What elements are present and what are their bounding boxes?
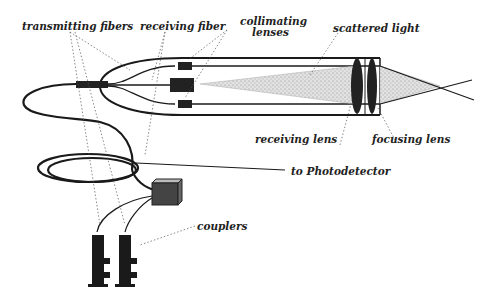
receiving-lens — [351, 58, 363, 114]
junction-box — [152, 179, 182, 205]
label-lenses: lenses — [252, 26, 289, 38]
leader-lines — [70, 30, 395, 245]
label-couplers: couplers — [197, 220, 248, 232]
label-focusing-lens: focusing lens — [371, 133, 450, 145]
probe-diagram: transmitting fibers receiving fiber coll… — [0, 0, 493, 300]
collimating-lens-bottom — [178, 100, 192, 108]
label-transmitting-fibers: transmitting fibers — [22, 20, 133, 32]
scattered-light-cone — [200, 66, 355, 104]
label-receiving-lens: receiving lens — [255, 133, 337, 145]
coupler-fibers — [97, 196, 152, 232]
fiber-bundle — [108, 66, 175, 104]
fiber-connector — [76, 81, 108, 88]
photodetector-line — [136, 163, 285, 170]
label-scattered-light: scattered light — [333, 22, 420, 34]
coupler-left — [88, 235, 110, 287]
collimating-lens-top — [178, 62, 192, 70]
label-to-photodetector: to Photodetector — [291, 165, 392, 177]
label-receiving-fiber: receiving fiber — [140, 20, 227, 32]
coupler-right — [115, 235, 137, 287]
focusing-lens — [367, 58, 377, 114]
fiber-cable — [23, 84, 155, 190]
